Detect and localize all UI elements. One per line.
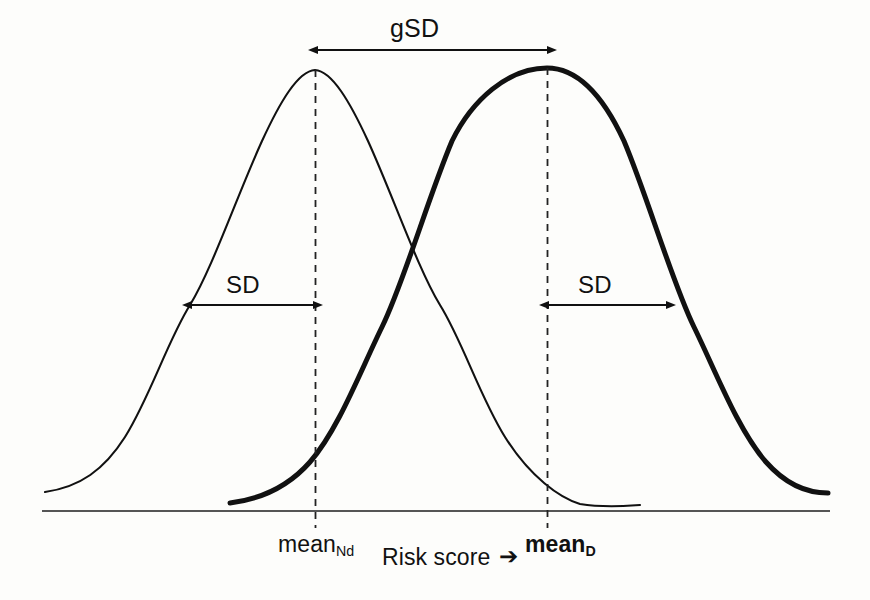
figure-canvas: gSD SD SD meanNd meanD Risk score➔ xyxy=(0,0,870,600)
risk-score-axis-caption: Risk score➔ xyxy=(382,546,518,569)
distribution-diagram-svg xyxy=(0,0,870,600)
mean-nd-axis-label: meanNd xyxy=(278,533,354,556)
mean-nd-subscript: Nd xyxy=(336,543,354,559)
curve-mean-nd xyxy=(45,70,640,506)
right-arrow-icon: ➔ xyxy=(490,543,518,569)
mean-d-base-text: mean xyxy=(525,531,585,557)
sd-right-label: SD xyxy=(578,273,612,297)
mean-nd-base-text: mean xyxy=(278,531,336,557)
risk-score-axis-text: Risk score xyxy=(382,544,490,570)
sd-left-label: SD xyxy=(226,273,260,297)
curve-mean-d xyxy=(230,68,828,503)
mean-d-axis-label: meanD xyxy=(525,533,596,556)
gsd-label: gSD xyxy=(390,16,439,41)
mean-d-subscript: D xyxy=(585,543,595,559)
